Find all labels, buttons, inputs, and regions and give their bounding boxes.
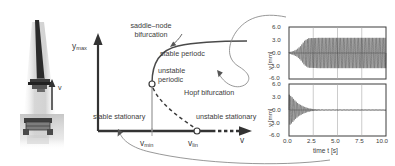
xtick-10: 10.0 xyxy=(376,138,388,145)
bifurcation-figure: v xyxy=(0,0,395,166)
lower-ytick-6: 6.0 xyxy=(272,81,281,88)
upper-y-axis-label: y [mm] xyxy=(266,51,273,70)
xtick-0: 0.0 xyxy=(283,138,292,145)
upper-ytick-3: 3.0 xyxy=(272,37,281,44)
xtick-2_5: 2.5 xyxy=(307,138,316,145)
upper-ytick-0: 0.0 xyxy=(272,50,281,57)
lower-ytick-0: 0.0 xyxy=(272,107,281,114)
upper-ytick-6: 6.0 xyxy=(272,24,281,31)
lower-ytick-3: 3.0 xyxy=(272,94,281,101)
lower-ytick-m6: -6.0 xyxy=(269,132,280,139)
xtick-5: 5.0 xyxy=(331,138,340,145)
x-axis-label-time: time t [s] xyxy=(313,148,338,155)
xtick-7_5: 7.5 xyxy=(355,138,364,145)
lower-y-axis-label: y [mm] xyxy=(266,108,273,127)
